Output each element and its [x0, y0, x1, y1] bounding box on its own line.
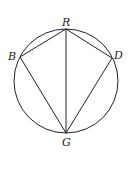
segment-BG: [20, 57, 66, 133]
segment-DG: [66, 58, 112, 133]
segment-RD: [66, 29, 112, 58]
segment-RB: [20, 29, 66, 57]
label-B: B: [7, 50, 16, 63]
label-R: R: [61, 16, 70, 29]
label-G: G: [62, 136, 71, 149]
geometry-diagram: R B D G: [0, 0, 132, 178]
label-D: D: [113, 49, 123, 62]
